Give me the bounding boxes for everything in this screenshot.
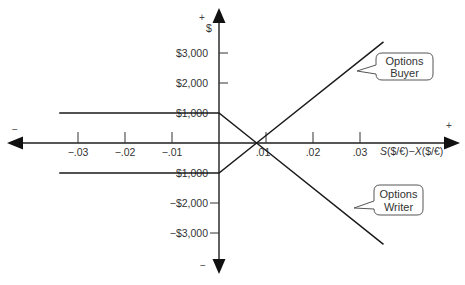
- y-tick-label: $3,000: [176, 47, 208, 59]
- y-axis-minus-sign: −: [200, 260, 206, 271]
- y-tick-label: −$2,000: [170, 197, 208, 209]
- x-tick-label: −.03: [68, 146, 89, 158]
- x-axis-minus-sign: −: [12, 124, 18, 135]
- x-tick-label: −.02: [115, 146, 136, 158]
- payoff-chart: + $ − − + S($/€)−X($/€) −.03 −.02 −.01 .…: [0, 0, 465, 285]
- x-tick-label: .03: [353, 146, 368, 158]
- callout-text-line: Buyer: [390, 67, 419, 79]
- callout-text-line: Options: [380, 188, 418, 200]
- callout-text-line: Options: [386, 55, 424, 67]
- y-axis-plus-sign: +: [199, 12, 205, 23]
- x-tick-label: −.01: [162, 146, 183, 158]
- x-tick-label: .02: [306, 146, 321, 158]
- callout-text-line: Writer: [384, 201, 413, 213]
- x-axis-plus-sign: +: [446, 120, 452, 131]
- y-tick-label: −$3,000: [170, 227, 208, 239]
- x-axis-label: S($/€)−X($/€): [380, 145, 443, 157]
- y-axis-label: $: [206, 22, 212, 34]
- y-tick-label: $2,000: [176, 77, 208, 89]
